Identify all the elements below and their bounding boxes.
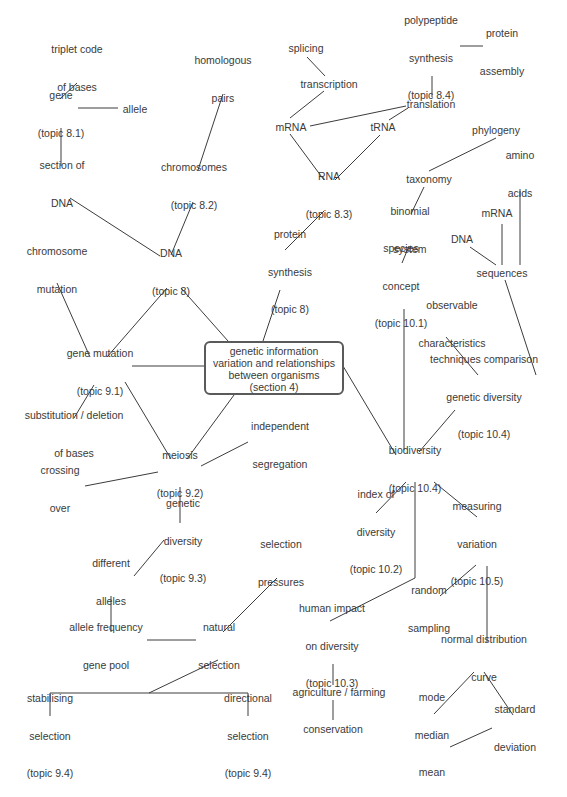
node-label: chromosomes bbox=[161, 161, 227, 174]
node-label: normal distribution bbox=[441, 633, 527, 646]
central-line-2: variation and relationships bbox=[206, 357, 342, 369]
node-measuring-variation[interactable]: measuring variation (topic 10.5) bbox=[451, 475, 504, 613]
central-line-4: (section 4) bbox=[206, 381, 342, 393]
node-rna[interactable]: RNA (topic 8.3) bbox=[306, 145, 353, 245]
node-label: (topic 9.3) bbox=[160, 572, 207, 585]
node-label: standard bbox=[494, 703, 536, 716]
node-label: conservation bbox=[303, 723, 363, 736]
node-label: DNA bbox=[152, 247, 190, 260]
node-label: genetic diversity bbox=[430, 391, 538, 404]
node-label: mean bbox=[415, 766, 449, 779]
node-standard-deviation[interactable]: standard deviation bbox=[494, 678, 536, 778]
node-label: synthesis bbox=[404, 52, 458, 65]
connector bbox=[50, 693, 248, 716]
node-label: tRNA bbox=[370, 121, 395, 134]
node-label: crossing bbox=[40, 464, 79, 477]
node-directional-selection[interactable]: directional selection (topic 9.4) bbox=[224, 667, 272, 797]
node-label: selection bbox=[258, 538, 304, 551]
node-label: (topic 8) bbox=[268, 303, 312, 316]
node-label: gene pool bbox=[69, 659, 143, 672]
node-label: chromosome bbox=[27, 245, 88, 258]
node-label: species bbox=[375, 242, 428, 255]
node-label: (topic 9.4) bbox=[224, 767, 272, 780]
node-label: gene mutation bbox=[67, 347, 134, 360]
node-label: different bbox=[92, 557, 130, 570]
node-stabilising-selection[interactable]: stabilising selection (topic 9.4) bbox=[27, 667, 74, 797]
node-label: human impact bbox=[299, 602, 365, 615]
node-label: pressures bbox=[258, 576, 304, 589]
node-label: mode bbox=[415, 691, 449, 704]
node-label: selection bbox=[224, 730, 272, 743]
node-label: binomial bbox=[390, 205, 429, 218]
node-label: stabilising bbox=[27, 692, 74, 705]
node-label: selection bbox=[27, 730, 74, 743]
node-chromosome-mutation[interactable]: chromosome mutation bbox=[27, 220, 88, 320]
node-mrna-right[interactable]: mRNA bbox=[482, 182, 513, 245]
node-label: protein bbox=[268, 228, 312, 241]
central-line-3: between organisms bbox=[206, 369, 342, 381]
concept-map: genetic information variation and relati… bbox=[0, 0, 567, 797]
node-label: allele frequency bbox=[69, 621, 143, 634]
connector bbox=[201, 442, 248, 466]
node-protein-synthesis[interactable]: protein synthesis (topic 8) bbox=[268, 203, 312, 341]
node-label: section of bbox=[40, 159, 85, 172]
node-dna-topic-8[interactable]: DNA (topic 8) bbox=[152, 222, 190, 322]
node-label: over bbox=[40, 502, 79, 515]
node-label: gene bbox=[38, 89, 85, 102]
node-label: mRNA bbox=[482, 207, 513, 220]
node-protein-assembly[interactable]: protein assembly bbox=[480, 2, 524, 102]
node-trna[interactable]: tRNA bbox=[370, 96, 395, 159]
node-label: substitution / deletion bbox=[25, 409, 124, 422]
node-label: segregation bbox=[251, 458, 309, 471]
central-topic-box[interactable]: genetic information variation and relati… bbox=[204, 341, 344, 395]
node-label: independent bbox=[251, 420, 309, 433]
connector bbox=[450, 728, 492, 747]
node-selection-pressures[interactable]: selection pressures bbox=[258, 513, 304, 613]
node-label: random bbox=[408, 584, 450, 597]
node-homologous-pairs[interactable]: homologous pairs bbox=[194, 29, 251, 129]
node-label: polypeptide bbox=[404, 14, 458, 27]
node-label: mutation bbox=[27, 283, 88, 296]
node-label: biodiversity bbox=[389, 444, 442, 457]
node-label: (topic 10.5) bbox=[451, 575, 504, 588]
node-section-of-dna[interactable]: section of DNA bbox=[40, 134, 85, 234]
node-label: homologous bbox=[194, 54, 251, 67]
node-label: agriculture / farming bbox=[293, 686, 386, 699]
node-label: amino bbox=[506, 149, 535, 162]
node-chromosomes[interactable]: chromosomes (topic 8.2) bbox=[161, 136, 227, 236]
node-label: (topic 8.3) bbox=[306, 208, 353, 221]
node-crossing-over[interactable]: crossing over bbox=[40, 439, 79, 539]
node-label: median bbox=[415, 729, 449, 742]
node-label: variation bbox=[451, 538, 504, 551]
node-label: triplet code bbox=[51, 43, 102, 56]
node-allele[interactable]: allele bbox=[123, 78, 148, 141]
node-label: deviation bbox=[494, 741, 536, 754]
node-label: techniques comparison bbox=[430, 353, 538, 366]
node-label: index of bbox=[350, 488, 403, 501]
node-label: (topic 10.2) bbox=[350, 563, 403, 576]
node-label: meiosis bbox=[157, 449, 204, 462]
node-techniques-comparison[interactable]: techniques comparison genetic diversity … bbox=[430, 328, 538, 466]
node-label: allele bbox=[123, 103, 148, 116]
node-label: directional bbox=[224, 692, 272, 705]
node-label: (topic 8) bbox=[152, 285, 190, 298]
node-label: DNA bbox=[40, 197, 85, 210]
node-label: mRNA bbox=[276, 121, 307, 134]
node-label: assembly bbox=[480, 65, 524, 78]
node-label: observable bbox=[418, 299, 485, 312]
node-label: (topic 10.4) bbox=[430, 428, 538, 441]
node-transcription[interactable]: transcription bbox=[300, 53, 357, 116]
node-independent-segregation[interactable]: independent segregation bbox=[251, 395, 309, 495]
central-line-1: genetic information bbox=[206, 345, 342, 357]
node-mode-median-mean[interactable]: mode median mean bbox=[415, 666, 449, 797]
node-dna-right[interactable]: DNA bbox=[451, 208, 473, 271]
node-label: diversity bbox=[160, 535, 207, 548]
node-conservation[interactable]: conservation bbox=[303, 698, 363, 761]
node-allele-frequency[interactable]: allele frequency gene pool bbox=[69, 596, 143, 696]
node-label: translation bbox=[407, 98, 455, 111]
node-label: natural bbox=[198, 621, 239, 634]
node-label: measuring bbox=[451, 500, 504, 513]
node-mrna[interactable]: mRNA bbox=[276, 96, 307, 159]
node-genetic-diversity[interactable]: genetic diversity (topic 9.3) bbox=[160, 472, 207, 610]
node-translation[interactable]: translation bbox=[407, 73, 455, 136]
